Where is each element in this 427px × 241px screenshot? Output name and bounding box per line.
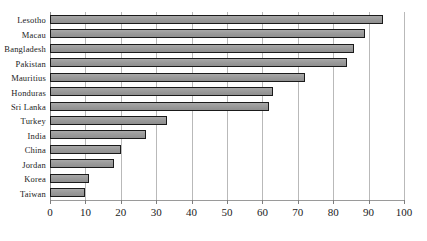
bar-row — [50, 174, 89, 183]
tick-label-30: 30 — [151, 206, 162, 218]
plot-area — [50, 12, 404, 200]
category-label-korea: Korea — [0, 174, 46, 184]
bar-row — [50, 188, 85, 197]
tick-100 — [404, 200, 405, 204]
bar-row — [50, 15, 383, 24]
tick-80 — [333, 200, 334, 204]
bar-china — [50, 145, 121, 154]
bar-jordan — [50, 159, 114, 168]
bar-row — [50, 73, 305, 82]
tick-70 — [298, 200, 299, 204]
bar-row — [50, 102, 269, 111]
bar-row — [50, 87, 273, 96]
bar-chart: LesothoMacauBangladeshPakistanMauritiusH… — [0, 0, 427, 241]
bars-group — [50, 12, 404, 200]
tick-label-20: 20 — [115, 206, 126, 218]
category-label-india: India — [0, 131, 46, 141]
category-label-sri-lanka: Sri Lanka — [0, 102, 46, 112]
tick-label-60: 60 — [257, 206, 268, 218]
tick-20 — [121, 200, 122, 204]
bar-row — [50, 130, 146, 139]
bar-turkey — [50, 116, 167, 125]
bar-macau — [50, 29, 365, 38]
bar-row — [50, 145, 121, 154]
category-label-bangladesh: Bangladesh — [0, 44, 46, 54]
tick-label-10: 10 — [80, 206, 91, 218]
category-label-mauritius: Mauritius — [0, 73, 46, 83]
bar-row — [50, 44, 354, 53]
bar-row — [50, 58, 347, 67]
tick-label-80: 80 — [328, 206, 339, 218]
tick-label-50: 50 — [222, 206, 233, 218]
tick-60 — [262, 200, 263, 204]
bar-india — [50, 130, 146, 139]
tick-30 — [156, 200, 157, 204]
tick-label-70: 70 — [292, 206, 303, 218]
tick-label-40: 40 — [186, 206, 197, 218]
bar-pakistan — [50, 58, 347, 67]
tick-label-100: 100 — [396, 206, 413, 218]
bar-row — [50, 116, 167, 125]
tick-10 — [85, 200, 86, 204]
bar-sri-lanka — [50, 102, 269, 111]
bar-mauritius — [50, 73, 305, 82]
category-label-jordan: Jordan — [0, 160, 46, 170]
bar-korea — [50, 174, 89, 183]
bar-bangladesh — [50, 44, 354, 53]
bar-honduras — [50, 87, 273, 96]
bar-lesotho — [50, 15, 383, 24]
bar-row — [50, 159, 114, 168]
tick-90 — [369, 200, 370, 204]
tick-40 — [192, 200, 193, 204]
tick-label-90: 90 — [363, 206, 374, 218]
tick-50 — [227, 200, 228, 204]
category-label-taiwan: Taiwan — [0, 189, 46, 199]
category-label-honduras: Honduras — [0, 88, 46, 98]
bar-row — [50, 29, 365, 38]
category-label-macau: Macau — [0, 30, 46, 40]
bar-taiwan — [50, 188, 85, 197]
category-label-china: China — [0, 145, 46, 155]
category-label-lesotho: Lesotho — [0, 15, 46, 25]
category-axis: LesothoMacauBangladeshPakistanMauritiusH… — [0, 12, 46, 200]
tick-label-0: 0 — [47, 206, 53, 218]
category-label-turkey: Turkey — [0, 116, 46, 126]
gridline-100 — [404, 12, 405, 200]
category-label-pakistan: Pakistan — [0, 59, 46, 69]
tick-0 — [50, 200, 51, 204]
